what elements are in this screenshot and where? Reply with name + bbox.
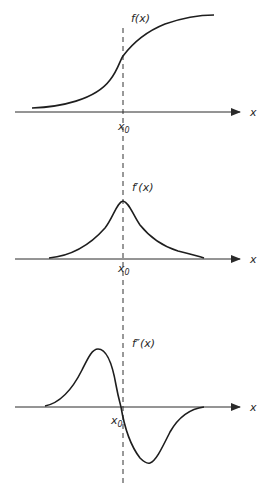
f-label: f(x)	[131, 12, 150, 25]
x-axis-label-2: x	[249, 253, 257, 266]
x0-label-2: x0	[117, 262, 130, 277]
f-double-prime-curve	[45, 349, 204, 463]
panel-f-prime: f′(x) x x0	[15, 181, 257, 277]
f-prime-label: f′(x)	[132, 181, 153, 194]
x-axis-label-1: x	[249, 106, 257, 119]
derivative-diagram: f(x) x x0 f′(x) x x0 f″(x) x x0	[0, 0, 273, 484]
f-double-prime-label: f″(x)	[132, 337, 155, 350]
x-axis-label-3: x	[249, 401, 257, 414]
x0-label-1: x0	[117, 120, 130, 135]
x0-label-3: x0	[110, 414, 123, 429]
panel-f: f(x) x x0	[15, 12, 257, 135]
panel-f-double-prime: f″(x) x x0	[15, 337, 257, 463]
f-prime-curve	[49, 201, 204, 258]
